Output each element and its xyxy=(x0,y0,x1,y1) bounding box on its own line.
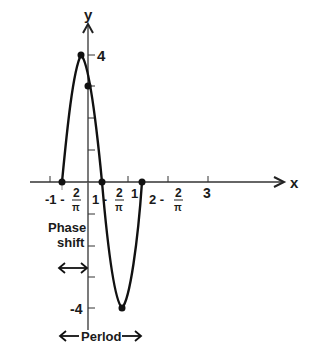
y-axis-label: y xyxy=(84,6,93,23)
x-tick-label-2minus: 2 - 2 π xyxy=(149,186,183,213)
y-tick-neg4: -4 xyxy=(70,301,83,317)
svg-text:π: π xyxy=(115,202,123,213)
svg-text:π: π xyxy=(174,202,182,213)
svg-text:-1 -: -1 - xyxy=(45,192,65,207)
y-tick-4: 4 xyxy=(97,47,106,64)
phase-shift-arrow-icon xyxy=(59,263,87,273)
svg-text:2: 2 xyxy=(73,186,80,200)
x-tick-label-1: 1 xyxy=(131,186,138,201)
x-tick-label-3: 3 xyxy=(203,185,211,201)
svg-text:π: π xyxy=(72,202,80,213)
x-ticks xyxy=(50,176,208,182)
svg-text:2: 2 xyxy=(116,186,123,200)
period-label: Perlod xyxy=(81,329,122,344)
phase-shift-label: Phase xyxy=(48,220,86,235)
x-tick-label-1minus: 1 - 2 π xyxy=(92,186,124,213)
sinusoid-graph: x y 4 -4 -1 - 2 π 1 - 2 π 1 2 - 2 xyxy=(0,0,315,363)
phase-shift-label: shift xyxy=(57,235,85,250)
svg-text:2 -: 2 - xyxy=(149,192,164,207)
x-tick-label-neg1: -1 - 2 π xyxy=(45,186,81,213)
svg-text:2: 2 xyxy=(175,186,182,200)
x-axis-label: x xyxy=(290,174,299,191)
